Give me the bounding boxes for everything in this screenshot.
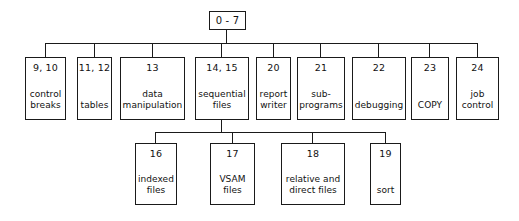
node-number: 13 [146, 63, 159, 74]
node-label: debugging [355, 100, 403, 110]
node-tables[interactable]: 11, 12 tables [77, 57, 112, 120]
connector-level2-bus [155, 132, 385, 133]
node-job-control[interactable]: 24 job control [456, 57, 499, 120]
node-sort[interactable]: 19 sort [370, 143, 401, 205]
node-root[interactable]: 0 - 7 [209, 11, 246, 30]
node-label: tables [81, 100, 109, 110]
node-number: 17 [226, 149, 239, 160]
connector-level1-bus [45, 43, 478, 44]
node-data-manipulation[interactable]: 13 data manipulation [120, 57, 185, 120]
node-debugging[interactable]: 22 debugging [352, 57, 406, 120]
node-number: 21 [315, 63, 328, 74]
node-label: data manipulation [123, 89, 183, 110]
node-number: 20 [267, 63, 280, 74]
connector-root-stem [226, 30, 227, 44]
node-indexed-files[interactable]: 16 indexed files [135, 143, 177, 205]
node-label: sort [377, 185, 395, 195]
node-report-writer[interactable]: 20 report writer [256, 57, 291, 120]
connector-drop-7 [378, 43, 379, 58]
node-label: job control [462, 89, 494, 110]
connector-drop-6 [320, 43, 321, 58]
node-subprograms[interactable]: 21 sub- programs [297, 57, 345, 120]
node-root-number: 0 - 7 [216, 15, 240, 27]
node-sequential-files[interactable]: 14, 15 sequential files [195, 57, 249, 120]
node-label: sub- programs [299, 89, 343, 110]
node-label: sequential files [198, 89, 245, 110]
node-label: control breaks [30, 89, 62, 110]
connector-drop-3 [152, 43, 153, 58]
node-number: 18 [307, 149, 320, 160]
node-number: 24 [471, 63, 484, 74]
hierarchy-diagram: 0 - 7 9, 10 control breaks 11, 12 tables… [0, 0, 519, 221]
node-number: 11, 12 [79, 63, 110, 74]
connector-drop-4 [221, 43, 222, 58]
node-copy[interactable]: 23 COPY [411, 57, 449, 120]
node-number: 14, 15 [206, 63, 237, 74]
node-number: 23 [424, 63, 437, 74]
connector-drop-5 [273, 43, 274, 58]
node-label: relative and direct files [286, 174, 340, 195]
node-label: report writer [260, 89, 288, 110]
node-label: VSAM files [219, 174, 245, 195]
node-relative-direct-files[interactable]: 18 relative and direct files [281, 143, 345, 205]
node-vsam-files[interactable]: 17 VSAM files [210, 143, 255, 205]
node-label: COPY [418, 100, 442, 110]
node-label: indexed files [138, 174, 174, 195]
connector-drop-1 [45, 43, 46, 58]
node-number: 16 [150, 149, 163, 160]
connector-drop-9 [477, 43, 478, 58]
node-number: 19 [379, 149, 392, 160]
connector-drop-2 [94, 43, 95, 58]
node-number: 9, 10 [33, 63, 58, 74]
connector-drop-8 [429, 43, 430, 58]
node-number: 22 [373, 63, 386, 74]
node-control-breaks[interactable]: 9, 10 control breaks [25, 57, 66, 120]
